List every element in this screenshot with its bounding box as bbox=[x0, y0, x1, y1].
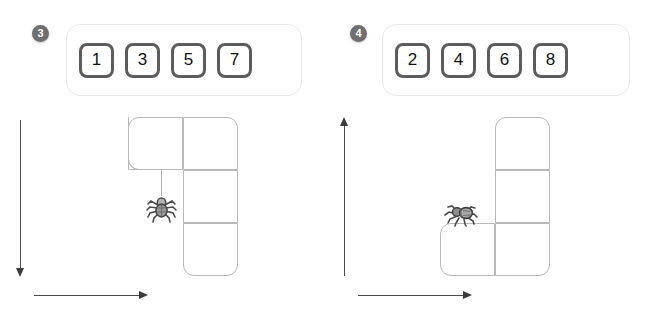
horizontal-axis-arrow-right-icon bbox=[463, 291, 472, 299]
panel-3: 3 1 3 5 7 bbox=[0, 0, 323, 322]
grid-cell-c0r0-corner bbox=[128, 117, 183, 170]
horizontal-axis-3 bbox=[34, 295, 140, 296]
tile-tray-4: 2 4 6 8 bbox=[382, 24, 630, 96]
grid-cell-c1r1 bbox=[183, 170, 238, 223]
vertical-axis-arrow-down-icon bbox=[16, 268, 24, 277]
tile-tray-3: 1 3 5 7 bbox=[66, 24, 302, 96]
spider-icon bbox=[444, 198, 480, 232]
horizontal-axis-arrow-right-icon bbox=[139, 291, 148, 299]
tile-5[interactable]: 5 bbox=[171, 43, 206, 78]
figure-4 bbox=[324, 100, 647, 322]
tile-4[interactable]: 4 bbox=[441, 43, 476, 78]
tile-2[interactable]: 2 bbox=[395, 43, 430, 78]
panel-badge-4: 4 bbox=[350, 25, 367, 42]
tile-1[interactable]: 1 bbox=[79, 43, 114, 78]
spider-icon bbox=[145, 192, 178, 229]
grid-cell-c1r2 bbox=[495, 223, 550, 276]
panel-badge-3: 3 bbox=[32, 25, 49, 42]
figure-3 bbox=[0, 100, 323, 322]
grid-cell-c1r2 bbox=[183, 223, 238, 276]
tile-7[interactable]: 7 bbox=[217, 43, 252, 78]
grid-cell-c1r0 bbox=[495, 117, 550, 170]
tile-8[interactable]: 8 bbox=[533, 43, 568, 78]
vertical-axis-arrow-up-icon bbox=[340, 117, 348, 126]
tile-6[interactable]: 6 bbox=[487, 43, 522, 78]
panel-4: 4 2 4 6 8 bbox=[324, 0, 647, 322]
vertical-axis-4 bbox=[344, 126, 345, 276]
grid-cell-c1r0 bbox=[183, 117, 238, 170]
tile-3[interactable]: 3 bbox=[125, 43, 160, 78]
horizontal-axis-4 bbox=[358, 295, 464, 296]
vertical-axis-3 bbox=[20, 120, 21, 270]
grid-cell-c1r1 bbox=[495, 170, 550, 223]
